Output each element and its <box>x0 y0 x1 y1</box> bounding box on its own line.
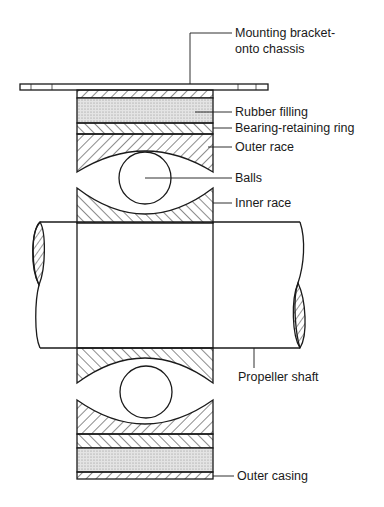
bearing-diagram: Mounting bracket- onto chassis Rubber fi… <box>0 0 384 507</box>
label-rubber-filling: Rubber filling <box>235 105 308 119</box>
ball-bottom <box>120 366 172 418</box>
label-outer-race: Outer race <box>235 140 294 154</box>
propeller-shaft <box>33 222 305 348</box>
label-inner-race: Inner race <box>235 196 291 210</box>
rubber-filling-top <box>77 98 213 123</box>
outer-casing-bottom <box>77 472 213 479</box>
label-propeller-shaft: Propeller shaft <box>238 370 319 384</box>
rubber-filling-bottom <box>77 448 213 472</box>
label-balls: Balls <box>235 171 262 185</box>
retaining-ring-top <box>77 123 213 134</box>
label-outer-casing: Outer casing <box>237 469 308 483</box>
retaining-ring-bottom <box>77 434 213 448</box>
label-mounting-bracket-line2: onto chassis <box>235 42 304 56</box>
outer-casing-top <box>77 90 213 98</box>
label-retaining-ring: Bearing-retaining ring <box>235 121 355 135</box>
mounting-bracket <box>20 84 268 90</box>
label-mounting-bracket-line1: Mounting bracket- <box>235 26 335 40</box>
